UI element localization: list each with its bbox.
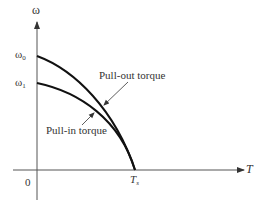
omega-0-subscript: 0 xyxy=(22,54,26,62)
pull-out-torque-label: Pull-out torque xyxy=(99,70,165,81)
ts-subscript: s xyxy=(136,179,139,187)
ts-label: Ts xyxy=(130,174,139,187)
diagram-canvas xyxy=(0,0,256,201)
omega-0-label: ω0 xyxy=(15,49,26,62)
omega-1-subscript: 1 xyxy=(22,82,26,90)
origin-label: 0 xyxy=(25,177,31,188)
omega-1-label: ω1 xyxy=(15,77,26,90)
y-axis-label: ω xyxy=(32,4,40,16)
pull-out-leader xyxy=(104,82,128,105)
pull-in-torque-label: Pull-in torque xyxy=(46,125,107,136)
x-axis-label: T xyxy=(246,163,253,175)
